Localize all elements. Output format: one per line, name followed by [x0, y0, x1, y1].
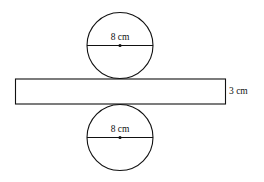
bottom-diameter-label: 8 cm	[111, 124, 130, 134]
bottom-center-dot	[118, 136, 121, 139]
cylinder-net-diagram: 8 cm 3 cm 8 cm	[0, 0, 264, 182]
lateral-rectangle: 3 cm	[16, 79, 249, 104]
top-circle: 8 cm	[87, 13, 153, 79]
rectangle-height-label: 3 cm	[229, 86, 248, 96]
top-center-dot	[118, 44, 121, 47]
bottom-circle: 8 cm	[87, 105, 153, 171]
top-diameter-label: 8 cm	[111, 32, 130, 42]
